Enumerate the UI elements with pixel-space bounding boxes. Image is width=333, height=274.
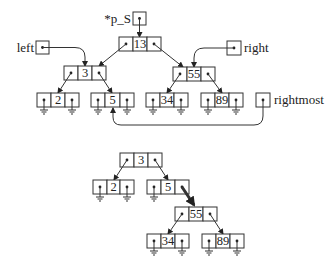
node-value: 2 <box>55 93 61 107</box>
node-value: 89 <box>216 93 229 107</box>
node-value: 5 <box>109 93 115 107</box>
node-value: 5 <box>165 180 171 194</box>
rightmost-pointer-box <box>113 93 270 125</box>
p_S-pointer-box <box>133 12 146 37</box>
rightmost-label: rightmost <box>274 92 324 107</box>
p_S-label: *p_S <box>104 11 131 26</box>
node-value: 3 <box>82 66 88 80</box>
node-value: 2 <box>110 180 116 194</box>
node-value: 13 <box>134 37 147 51</box>
node-value: 34 <box>161 93 174 107</box>
node-value: 89 <box>217 234 230 248</box>
left-label: left <box>17 40 35 55</box>
right-pointer-box <box>194 41 241 67</box>
node-value: 55 <box>188 67 201 81</box>
binary-tree-split-diagram: *p_S left right rightmost 13 3 55 2 5 34… <box>0 0 333 274</box>
right-label: right <box>244 40 269 55</box>
node-value: 55 <box>190 207 203 221</box>
node-value: 34 <box>162 234 175 248</box>
left-pointer-box <box>36 41 85 66</box>
node-value: 3 <box>138 153 144 167</box>
null-ground-icons <box>40 99 241 255</box>
